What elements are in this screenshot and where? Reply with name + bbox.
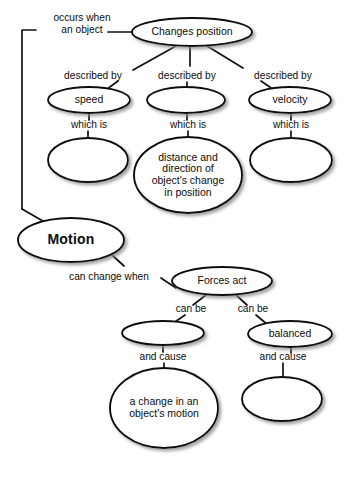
- node-ellipse-change_in_motion[interactable]: [110, 368, 218, 448]
- connector-changes-position-to-described-by-right: [207, 46, 243, 68]
- node-ellipse-blank_unbalanced[interactable]: [122, 321, 204, 345]
- concept-map-canvas: [0, 0, 344, 479]
- concept-map: Changes positionspeedvelocitydistance an…: [0, 0, 344, 479]
- node-ellipse-changes_position[interactable]: [132, 18, 252, 46]
- node-ellipse-speed[interactable]: [48, 87, 130, 113]
- connector-forces-act-to-can-be-right: [236, 295, 247, 305]
- node-ellipse-blank_middle_top[interactable]: [147, 87, 225, 113]
- node-ellipse-blank_speed_def[interactable]: [48, 138, 128, 182]
- node-ellipse-distance_direction[interactable]: [134, 137, 242, 213]
- connector-forces-act-to-can-be-left: [193, 295, 206, 305]
- connector-changes-position-to-described-by-left: [133, 46, 176, 70]
- node-ellipse-velocity[interactable]: [249, 87, 331, 113]
- node-ellipse-balanced[interactable]: [248, 321, 332, 347]
- node-ellipse-forces_act[interactable]: [172, 267, 272, 295]
- connector-motion-to-can-change-when: [112, 255, 124, 266]
- node-ellipse-blank_velocity_def[interactable]: [250, 138, 332, 182]
- node-ellipse-motion[interactable]: [18, 218, 124, 262]
- node-layer: [18, 18, 332, 448]
- node-ellipse-blank_balanced_effect[interactable]: [242, 377, 322, 421]
